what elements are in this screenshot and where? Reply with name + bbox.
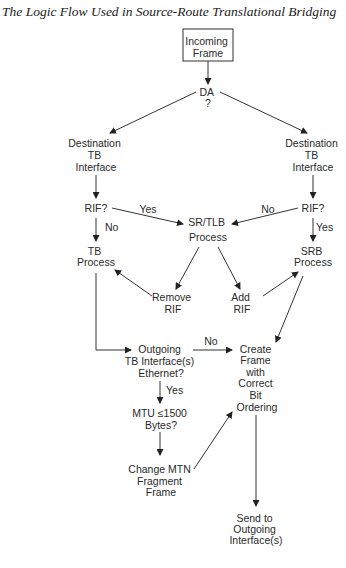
- node-mtu-check: MTU ≤1500 Bytes?: [132, 407, 190, 431]
- node-rif-right: RIF?: [302, 202, 325, 214]
- node-change-mtn: Change MTN Fragment Frame: [128, 463, 193, 498]
- node-create-frame: Create Frame with Correct Bit Ordering: [237, 343, 278, 413]
- node-rif-left: RIF?: [85, 202, 108, 214]
- node-send-outgoing: Send to Outgoing Interface(s): [229, 512, 282, 546]
- node-dest-tb-interface-left: Destination TB Interface: [68, 137, 123, 173]
- edge-label-outgoing-yes: Yes: [166, 384, 183, 396]
- edges: [96, 61, 313, 506]
- flowchart: Incoming Frame DA ? Destination TB Inter…: [0, 0, 346, 568]
- edge-label-rif-left-yes: Yes: [139, 203, 156, 215]
- node-dest-tb-interface-right: Destination TB Interface: [285, 137, 340, 173]
- edge-label-rif-right-yes: Yes: [316, 221, 333, 233]
- node-add-rif: Add RIF: [231, 291, 253, 315]
- node-da-decision: DA ?: [200, 86, 217, 109]
- node-remove-rif: Remove RIF: [152, 291, 194, 315]
- node-outgoing-ethernet: Outgoing TB Interface(s) Ethernet?: [125, 343, 197, 379]
- node-srb-process: SRB Process: [294, 245, 332, 268]
- node-srtlb-process: SR/TLB Process: [188, 216, 228, 243]
- edge-label-rif-right-no: No: [261, 203, 275, 215]
- edge-label-rif-left-no: No: [105, 221, 119, 233]
- edge-label-outgoing-no: No: [204, 335, 218, 347]
- node-tb-process: TB Process: [77, 245, 115, 268]
